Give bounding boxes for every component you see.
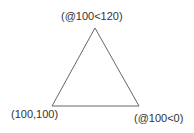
bottom-left-label: (100,100) xyxy=(11,109,58,120)
triangle xyxy=(52,28,139,106)
apex-label: (@100<120) xyxy=(61,11,123,22)
bottom-right-label: (@100<0) xyxy=(134,113,183,124)
